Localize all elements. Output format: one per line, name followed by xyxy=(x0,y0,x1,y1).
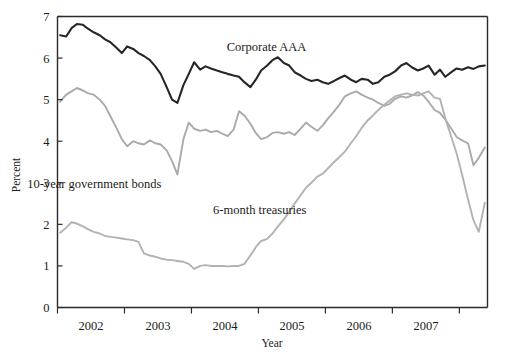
x-tick-label: 2005 xyxy=(279,319,304,333)
x-axis-title: Year xyxy=(261,337,282,349)
x-tick-label: 2004 xyxy=(212,319,238,333)
y-tick-label: 1 xyxy=(43,259,49,273)
y-tick-label: 7 xyxy=(43,10,49,24)
y-tick-label: 6 xyxy=(43,52,49,66)
y-tick-label: 0 xyxy=(43,301,49,315)
y-axis-title: Percent xyxy=(10,157,22,192)
interest-rates-line-chart: 01234567 200220032004200520062007 Corpor… xyxy=(0,0,507,358)
series-annotation-label: 10-year government bonds xyxy=(27,177,161,191)
x-tick-label: 2002 xyxy=(78,319,103,333)
x-tick-label: 2006 xyxy=(346,319,371,333)
y-tick-label: 4 xyxy=(43,135,50,149)
x-tick-label: 2003 xyxy=(145,319,170,333)
y-tick-label: 2 xyxy=(43,218,49,232)
y-tick-label: 5 xyxy=(43,93,49,107)
series-annotation-label: 6-month treasuries xyxy=(213,203,307,217)
x-tick-label: 2007 xyxy=(413,319,438,333)
series-annotation-label: Corporate AAA xyxy=(227,40,307,54)
chart-canvas: 01234567 200220032004200520062007 Corpor… xyxy=(0,0,507,358)
